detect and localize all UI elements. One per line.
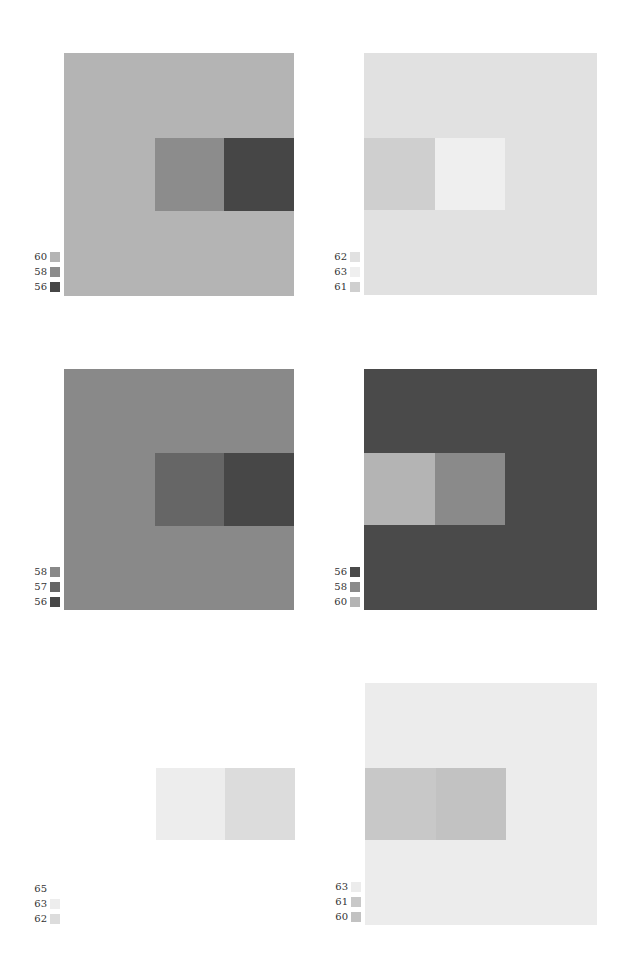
legend-swatch [50,282,60,292]
legend-swatch [350,567,360,577]
legend-swatch [350,597,360,607]
legend-swatch [350,282,360,292]
inner-square-right [224,138,294,211]
legend-item: 60 [24,252,64,264]
legend-item: 60 [325,912,365,924]
inner-square-left [155,138,224,211]
legend-item: 62 [324,252,364,264]
legend-item: 61 [324,282,364,294]
inner-square-left [365,768,436,840]
legend-label: 60 [334,596,347,607]
legend-swatch [50,252,60,262]
legend-label: 61 [334,281,347,292]
inner-square-left [156,768,225,840]
legend-swatch [350,252,360,262]
inner-square-left [364,138,435,210]
inner-square-right [225,768,295,840]
legend-item: 62 [24,914,64,926]
legend-label: 60 [34,251,47,262]
legend-label: 58 [34,566,47,577]
legend-label: 65 [34,883,47,894]
legend-item: 63 [24,899,64,911]
inner-square-left [155,453,224,526]
legend-swatch [351,882,361,892]
legend-label: 63 [334,266,347,277]
legend-item: 63 [324,267,364,279]
legend-label: 58 [334,581,347,592]
legend-item: 56 [24,597,64,609]
legend-swatch [50,899,60,909]
legend-label: 56 [34,281,47,292]
legend-item: 61 [325,897,365,909]
legend-label: 61 [335,896,348,907]
legend-swatch [50,884,60,894]
legend-swatch [351,912,361,922]
inner-square-right [224,453,294,526]
legend-item: 58 [24,567,64,579]
legend-swatch [50,914,60,924]
legend-swatch [50,597,60,607]
legend-swatch [350,267,360,277]
legend-label: 60 [335,911,348,922]
legend-label: 56 [34,596,47,607]
legend-swatch [50,267,60,277]
legend-label: 58 [34,266,47,277]
legend-item: 56 [324,567,364,579]
legend-swatch [50,582,60,592]
legend-label: 56 [334,566,347,577]
legend-item: 60 [324,597,364,609]
legend-swatch [350,582,360,592]
inner-square-right [435,453,505,525]
legend-item: 63 [325,882,365,894]
inner-square-left [364,453,435,525]
legend-label: 63 [335,881,348,892]
inner-square-right [436,768,506,840]
legend-item: 58 [24,267,64,279]
legend-item: 56 [24,282,64,294]
legend-label: 57 [34,581,47,592]
legend-swatch [50,567,60,577]
legend-item: 58 [324,582,364,594]
legend-label: 62 [334,251,347,262]
legend-label: 63 [34,898,47,909]
legend-item: 65 [24,884,64,896]
legend-swatch [351,897,361,907]
inner-square-right [435,138,505,210]
legend-label: 62 [34,913,47,924]
legend-item: 57 [24,582,64,594]
